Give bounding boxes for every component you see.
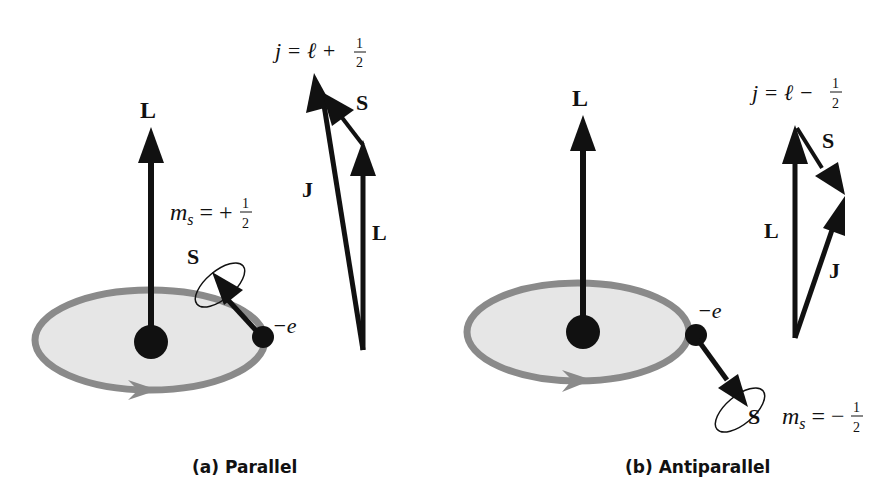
L-vec-arrowhead [782,125,808,164]
svg-text:j = ℓ +: j = ℓ + [272,38,336,63]
ms-label: ms = + [170,199,233,228]
svg-text:S: S [187,244,199,269]
svg-text:L: L [572,85,588,111]
caption-parallel: (a) Parallel [192,457,297,477]
svg-text:S: S [356,90,368,115]
ms-label: ms = − [782,403,845,432]
svg-text:2: 2 [853,420,860,435]
svg-text:1: 1 [356,36,363,51]
svg-text:S: S [748,404,760,429]
spin-orbit-diagram: L ms = + 1 2 S −e j = ℓ + 1 2 S J L (a) … [0,0,893,498]
svg-text:−e: −e [697,298,722,323]
electron [252,326,274,348]
svg-text:J: J [829,258,840,283]
J-vec-arrowhead [823,196,845,236]
svg-text:J: J [302,177,313,202]
L-vec-arrowhead [350,140,376,176]
panel-parallel: L ms = + 1 2 S −e j = ℓ + 1 2 S J L (a) … [35,36,387,477]
nucleus [134,325,168,359]
svg-text:L: L [372,220,387,245]
svg-text:j = ℓ −: j = ℓ − [749,80,813,105]
svg-text:2: 2 [356,55,363,70]
svg-text:S: S [822,128,834,153]
caption-antiparallel: (b) Antiparallel [625,457,770,477]
L-arrowhead [570,115,596,151]
svg-text:L: L [764,218,779,243]
svg-text:2: 2 [242,216,249,231]
panel-antiparallel: L −e S ms = − 1 2 j = ℓ − 1 2 S L J (b) … [467,76,863,477]
svg-text:1: 1 [242,196,249,211]
svg-text:−e: −e [272,313,297,338]
svg-text:2: 2 [832,96,839,111]
nucleus [566,315,600,349]
L-arrowhead [138,127,164,163]
L-label: L [140,97,156,123]
electron [685,324,707,346]
svg-text:1: 1 [853,400,860,415]
svg-text:1: 1 [832,76,839,91]
